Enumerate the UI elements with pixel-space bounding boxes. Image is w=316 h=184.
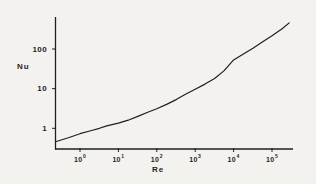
- x-tick-label: 100: [74, 153, 86, 163]
- x-tick-label: 101: [112, 153, 124, 163]
- nu-axis-label: Nu: [17, 62, 30, 71]
- figure-canvas: 100101102103104105 110100 Nu Re: [0, 0, 316, 184]
- y-tick-label: 100: [20, 45, 47, 54]
- axis-ticks: [52, 49, 272, 152]
- x-tick-label: 102: [151, 153, 163, 163]
- x-tick-label: 105: [266, 153, 278, 163]
- x-tick-label: 104: [228, 153, 240, 163]
- y-tick-label: 10: [20, 84, 47, 93]
- nu-re-curve: [56, 23, 290, 142]
- y-tick-label: 1: [20, 124, 47, 133]
- re-axis-label: Re: [152, 165, 164, 174]
- x-tick-label: 103: [189, 153, 201, 163]
